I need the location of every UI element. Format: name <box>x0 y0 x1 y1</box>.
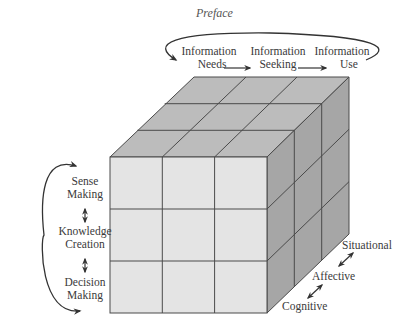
label-situational: Situational <box>342 239 392 252</box>
cube-front-face <box>110 157 267 313</box>
arrow-cognitive-affective-icon <box>308 285 322 298</box>
label-information-needs: Information Needs <box>180 45 238 71</box>
label-decision-making: Decision Making <box>60 276 110 302</box>
label-sense-making: Sense Making <box>60 175 110 201</box>
label-information-use: Information Use <box>313 45 371 71</box>
label-knowledge-creation: Knowledge Creation <box>56 225 114 251</box>
label-information-seeking: Information Seeking <box>249 45 307 71</box>
arrow-affective-situational-icon <box>339 253 353 266</box>
label-cognitive: Cognitive <box>282 300 327 313</box>
label-affective: Affective <box>312 270 355 283</box>
